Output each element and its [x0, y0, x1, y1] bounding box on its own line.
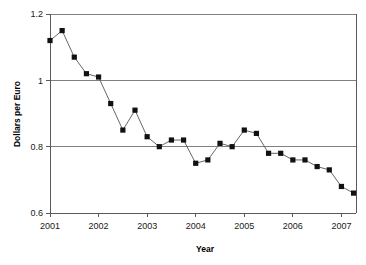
- y-axis-tick-labels: 0.60.811.2: [30, 9, 43, 218]
- data-point-marker: [339, 184, 344, 189]
- data-point-marker: [266, 151, 271, 156]
- x-tick-label: 2007: [331, 221, 351, 231]
- x-tick-label: 2005: [234, 221, 254, 231]
- x-tick-label: 2003: [137, 221, 157, 231]
- plot-axes: [50, 14, 356, 213]
- data-point-marker: [120, 127, 125, 132]
- y-axis-ticks: [46, 14, 50, 213]
- data-point-marker: [217, 141, 222, 146]
- data-point-marker: [242, 127, 247, 132]
- data-point-marker: [205, 157, 210, 162]
- data-point-marker: [351, 191, 356, 196]
- data-point-marker: [96, 74, 101, 79]
- data-point-marker: [302, 157, 307, 162]
- x-tick-label: 2002: [89, 221, 109, 231]
- data-point-marker: [290, 157, 295, 162]
- y-tick-label: 1: [38, 76, 43, 86]
- data-point-marker: [157, 144, 162, 149]
- y-axis-title: Dollars per Euro: [12, 81, 22, 147]
- x-axis-ticks: [50, 213, 341, 217]
- y-tick-label: 0.6: [30, 208, 43, 218]
- y-tick-label: 0.8: [30, 142, 43, 152]
- exchange-rate-line-chart: 0.60.811.2 2001200220032004200520062007 …: [0, 0, 366, 265]
- data-point-marker: [193, 161, 198, 166]
- data-point-marker: [47, 38, 52, 43]
- data-series: [47, 28, 356, 196]
- x-axis-title: Year: [196, 244, 215, 254]
- y-tick-label: 1.2: [30, 9, 43, 19]
- data-point-marker: [72, 55, 77, 60]
- data-point-marker: [254, 131, 259, 136]
- data-point-marker: [145, 134, 150, 139]
- series-line-dollars-per-euro: [50, 31, 354, 194]
- data-point-marker: [132, 108, 137, 113]
- data-point-marker: [327, 167, 332, 172]
- x-tick-label: 2006: [283, 221, 303, 231]
- data-point-marker: [84, 71, 89, 76]
- data-point-marker: [278, 151, 283, 156]
- x-axis-tick-labels: 2001200220032004200520062007: [40, 221, 351, 231]
- x-tick-label: 2004: [186, 221, 206, 231]
- data-point-marker: [169, 137, 174, 142]
- x-tick-label: 2001: [40, 221, 60, 231]
- series-markers: [47, 28, 356, 196]
- data-point-marker: [108, 101, 113, 106]
- chart-container: 0.60.811.2 2001200220032004200520062007 …: [0, 0, 366, 265]
- data-point-marker: [60, 28, 65, 33]
- data-point-marker: [181, 137, 186, 142]
- data-point-marker: [230, 144, 235, 149]
- data-point-marker: [315, 164, 320, 169]
- gridlines: [50, 14, 356, 147]
